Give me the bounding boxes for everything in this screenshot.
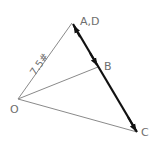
diagram-svg: A,D B C O 7.5# <box>0 0 153 149</box>
label-o: O <box>10 103 19 116</box>
label-b: B <box>104 60 112 73</box>
force-diagram: A,D B C O 7.5# <box>0 0 153 149</box>
label-c: C <box>141 126 149 139</box>
label-force-oa: 7.5# <box>28 51 51 77</box>
vector-ac <box>73 24 137 132</box>
arrowhead-b-icon <box>90 53 97 65</box>
arrowhead-c-icon <box>128 117 136 131</box>
label-ad: A,D <box>80 15 100 28</box>
